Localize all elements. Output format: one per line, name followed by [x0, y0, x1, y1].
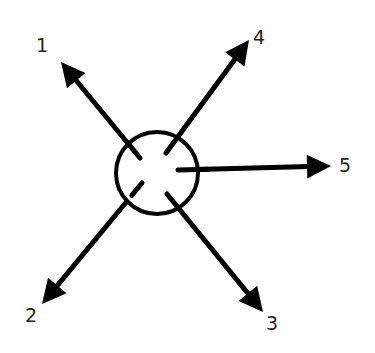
- arrow-label-2: 2: [25, 304, 37, 326]
- arrow-label-5: 5: [339, 154, 351, 176]
- arrowhead-5: [307, 155, 331, 179]
- arrow-label-3: 3: [266, 312, 278, 334]
- arrow-inner-stub-5: [178, 169, 208, 170]
- arrowhead-4: [225, 40, 249, 66]
- arrow-diagram: 1 2 3 4 5: [0, 0, 375, 353]
- arrow-label-4: 4: [253, 26, 265, 48]
- arrow-label-1: 1: [36, 34, 48, 56]
